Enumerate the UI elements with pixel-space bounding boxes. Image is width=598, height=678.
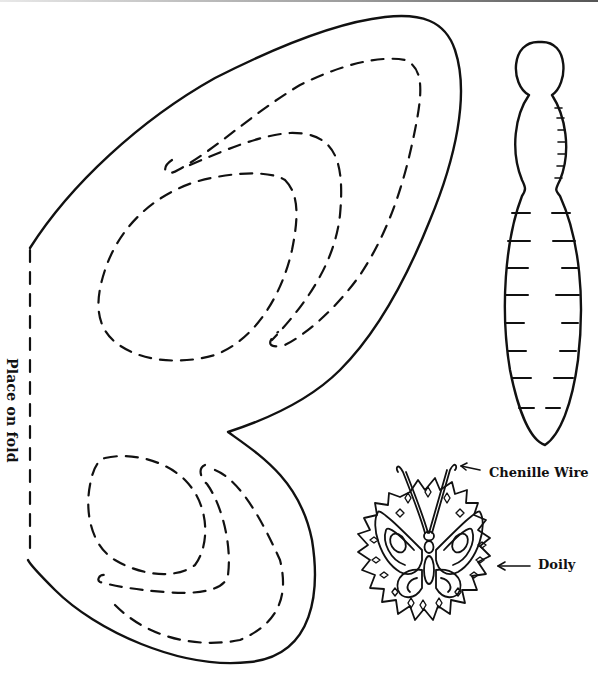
butterfly-abdomen [424, 556, 434, 584]
body-outline [505, 42, 581, 445]
antenna-right-inner [429, 470, 447, 533]
butterfly-thorax [425, 541, 434, 553]
chenille-wire-arrow [461, 463, 480, 470]
antenna-left [397, 467, 425, 533]
wing-outline [28, 16, 461, 663]
upper-wing-middle-dash [190, 133, 341, 340]
finished-butterfly-illustration [358, 465, 490, 620]
place-on-fold-label: Place on fold [4, 358, 20, 463]
lower-wing-inner-dash [88, 456, 205, 574]
doily-label: Doily [538, 557, 575, 572]
upper-wing-inner-dash [98, 173, 296, 360]
chenille-wire-label: Chenille Wire [489, 465, 589, 480]
upper-wing-outer-dash [165, 59, 420, 347]
template-artwork [0, 0, 598, 678]
upper-wing-left [375, 511, 422, 574]
body-template [505, 42, 581, 445]
upper-wing-right [436, 511, 483, 574]
doily-arrow [498, 562, 530, 570]
